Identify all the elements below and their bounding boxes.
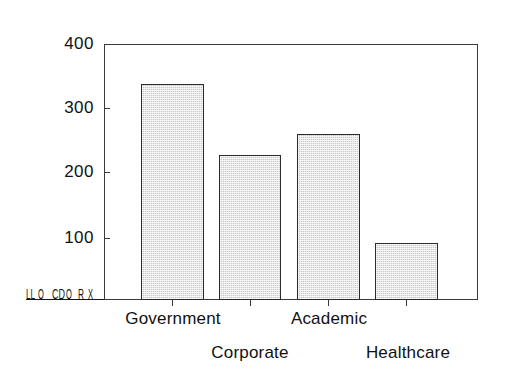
y-axis-tick-mark <box>104 44 110 45</box>
bar <box>297 134 360 300</box>
y-axis-tick-mark <box>104 172 110 173</box>
bar <box>219 155 281 300</box>
x-axis-category-label: Academic <box>268 310 390 327</box>
origin-text-artifact: LL O CD O R X <box>26 286 106 302</box>
x-axis-category-label: Government <box>103 310 243 327</box>
x-axis-tick-mark <box>172 300 173 306</box>
x-axis-tick-mark <box>328 300 329 306</box>
x-axis-tick-mark <box>406 300 407 306</box>
x-axis-category-label: Healthcare <box>338 344 478 361</box>
y-axis-labels: 400300200100 <box>30 0 94 389</box>
y-axis-tick-label: 400 <box>64 35 94 52</box>
y-axis-tick-mark <box>104 238 110 239</box>
x-axis-category-label: Corporate <box>185 344 315 361</box>
y-axis-tick-label: 300 <box>64 99 94 116</box>
y-axis-tick-label: 200 <box>64 163 94 180</box>
y-axis-tick-label: 100 <box>64 229 94 246</box>
chart-screenshot: 400300200100 GovernmentCorporateAcademic… <box>0 0 506 389</box>
bar <box>141 84 204 300</box>
y-axis-tick-mark <box>104 108 110 109</box>
bar <box>375 243 438 300</box>
x-axis-tick-mark <box>250 300 251 306</box>
origin-artifact-rule <box>26 299 104 300</box>
